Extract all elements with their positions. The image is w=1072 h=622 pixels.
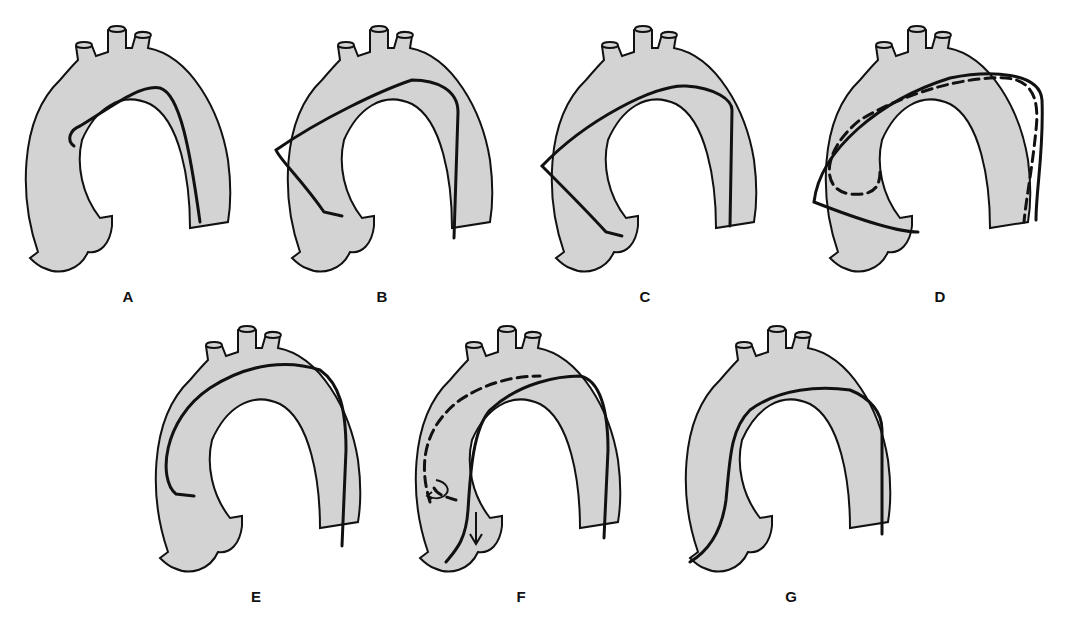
aortic-arch-panel-b [276, 26, 492, 271]
branch-vessel-opening-icon [206, 342, 222, 348]
branch-vessel-opening-icon [661, 32, 677, 38]
panel-label-c: C [640, 288, 651, 305]
panel-label-e: E [251, 588, 261, 605]
aorta-vessel-icon [552, 27, 756, 271]
branch-vessel-opening-icon [338, 42, 354, 48]
aortic-arch-panel-c [542, 26, 756, 271]
branch-vessel-opening-icon [935, 32, 951, 38]
aortic-arch-figure: A B C D E F G [0, 0, 1072, 622]
branch-vessel-opening-icon [876, 42, 892, 48]
aortic-arch-panel-e [156, 326, 360, 571]
panel-label-b: B [377, 288, 388, 305]
aorta-vessel-icon [156, 327, 360, 571]
aorta-vessel-icon [26, 27, 230, 271]
aortic-arch-drawings [0, 0, 1072, 622]
branch-vessel-opening-icon [795, 332, 811, 338]
panel-label-d: D [935, 288, 946, 305]
aortic-arch-panel-f [416, 326, 620, 571]
panel-label-f: F [516, 588, 525, 605]
branch-vessel-opening-icon [736, 342, 752, 348]
branch-vessel-opening-icon [76, 42, 92, 48]
branch-vessel-opening-icon [635, 26, 651, 32]
branch-vessel-opening-icon [135, 32, 151, 38]
panel-label-g: G [785, 588, 797, 605]
branch-vessel-opening-icon [466, 342, 482, 348]
branch-vessel-opening-icon [525, 332, 541, 338]
aorta-vessel-icon [826, 27, 1030, 271]
aortic-arch-panel-d [814, 26, 1042, 271]
branch-vessel-opening-icon [371, 26, 387, 32]
branch-vessel-opening-icon [109, 26, 125, 32]
branch-vessel-opening-icon [909, 26, 925, 32]
aortic-arch-panel-a [26, 26, 230, 271]
branch-vessel-opening-icon [499, 326, 515, 332]
panel-label-a: A [123, 288, 134, 305]
branch-vessel-opening-icon [239, 326, 255, 332]
branch-vessel-opening-icon [769, 326, 785, 332]
branch-vessel-opening-icon [265, 332, 281, 338]
branch-vessel-opening-icon [602, 42, 618, 48]
branch-vessel-opening-icon [397, 32, 413, 38]
aortic-arch-panel-g [686, 326, 890, 571]
aorta-vessel-icon [416, 327, 620, 571]
aorta-vessel-icon [288, 27, 492, 271]
